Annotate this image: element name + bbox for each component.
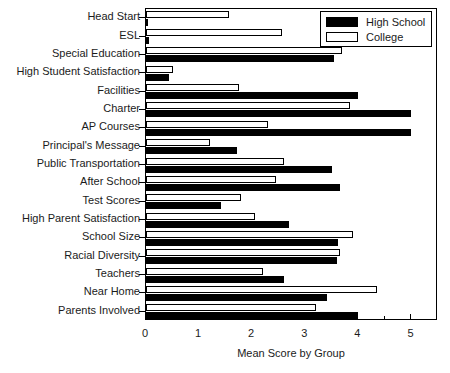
x-axis-tick (357, 314, 358, 320)
bar-high-school (146, 202, 221, 209)
x-axis-tick-label: 3 (289, 327, 319, 339)
bar-high-school (146, 276, 284, 283)
bar-high-school (146, 239, 338, 246)
bar-high-school (146, 19, 148, 26)
y-axis-tick (139, 164, 145, 165)
x-axis-tick (251, 314, 252, 320)
category-label: AP Courses (82, 121, 141, 132)
x-axis-tick-label: 0 (130, 327, 160, 339)
legend-swatch-high-school-icon (326, 17, 358, 27)
legend-label-college: College (366, 30, 403, 44)
y-axis-tick (139, 311, 145, 312)
bar-high-school (146, 129, 411, 136)
bar-college (146, 121, 268, 128)
x-axis-tick (198, 314, 199, 320)
y-axis-tick (139, 54, 145, 55)
bar-college (146, 139, 210, 146)
y-axis-tick (139, 201, 145, 202)
bar-college (146, 11, 229, 18)
x-axis-minor-tick (384, 316, 385, 320)
bar-college (146, 176, 276, 183)
bar-high-school (146, 110, 411, 117)
y-axis-tick (139, 127, 145, 128)
category-label: High Parent Satisfaction (22, 213, 140, 224)
y-axis-tick (139, 182, 145, 183)
x-axis-minor-tick (225, 316, 226, 320)
y-axis-tick (139, 109, 145, 110)
y-axis-tick (139, 146, 145, 147)
category-label: Near Home (84, 286, 140, 297)
bar-college (146, 231, 353, 238)
bar-high-school (146, 55, 334, 62)
bar-high-school (146, 312, 358, 319)
bar-high-school (146, 294, 327, 301)
bar-high-school (146, 92, 358, 99)
category-label: Head Start (87, 11, 140, 22)
bar-college (146, 213, 255, 220)
category-label: Charter (103, 103, 140, 114)
bar-college (146, 249, 340, 256)
category-label: Principal's Message (43, 140, 140, 151)
y-axis-tick (139, 219, 145, 220)
bar-high-school (146, 147, 237, 154)
x-axis-tick (145, 314, 146, 320)
category-label: Test Scores (83, 195, 140, 206)
legend-label-high-school: High School (366, 15, 425, 29)
y-axis-tick (139, 36, 145, 37)
x-axis-tick-label: 4 (342, 327, 372, 339)
bar-chart: Head StartESLSpecial EducationHigh Stude… (0, 0, 450, 373)
category-label: Racial Diversity (64, 250, 140, 261)
legend-swatch-college-icon (326, 32, 358, 42)
bar-high-school (146, 74, 169, 81)
x-axis-minor-tick (331, 316, 332, 320)
category-label: Public Transportation (37, 158, 140, 169)
bar-college (146, 29, 282, 36)
x-axis-tick (304, 314, 305, 320)
x-axis-tick-label: 1 (183, 327, 213, 339)
y-axis-tick (139, 72, 145, 73)
x-axis-tick-label: 2 (236, 327, 266, 339)
chart-legend: High School College (320, 11, 432, 47)
category-label: ESL (119, 30, 140, 41)
category-label: Special Education (52, 48, 140, 59)
category-label: School Size (82, 231, 140, 242)
y-axis-tick (139, 256, 145, 257)
y-axis-tick (139, 274, 145, 275)
bar-college (146, 194, 241, 201)
bar-high-school (146, 184, 340, 191)
bar-college (146, 158, 284, 165)
x-axis-tick (410, 314, 411, 320)
bar-college (146, 304, 316, 311)
category-label: Teachers (95, 268, 140, 279)
bar-high-school (146, 37, 149, 44)
bar-college (146, 102, 350, 109)
bar-college (146, 47, 342, 54)
x-axis-minor-tick (172, 316, 173, 320)
bar-college (146, 84, 239, 91)
x-axis-title: Mean Score by Group (145, 347, 437, 359)
category-label: After School (80, 176, 140, 187)
category-label: Parents Involved (58, 305, 140, 316)
y-axis-tick (139, 91, 145, 92)
y-axis-tick (139, 292, 145, 293)
bar-high-school (146, 166, 332, 173)
plot-area (145, 8, 437, 320)
x-axis-minor-tick (278, 316, 279, 320)
bar-college (146, 268, 263, 275)
category-label: High Student Satisfaction (16, 66, 140, 77)
y-axis-tick (139, 17, 145, 18)
category-label: Facilities (97, 85, 140, 96)
bar-high-school (146, 257, 337, 264)
bar-college (146, 286, 377, 293)
bar-college (146, 66, 173, 73)
y-axis-tick (139, 237, 145, 238)
category-label-column: Head StartESLSpecial EducationHigh Stude… (0, 0, 140, 373)
bar-high-school (146, 221, 289, 228)
x-axis-tick-label: 5 (395, 327, 425, 339)
